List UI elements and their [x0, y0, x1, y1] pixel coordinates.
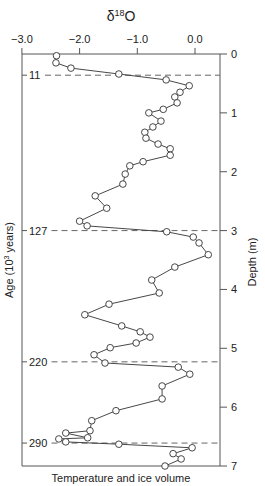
x-axis-label: Temperature and ice volume	[52, 472, 191, 484]
depth-tick-label: 6	[231, 401, 237, 413]
x-axis-ticks: −3.0−2.0−1.00.0	[11, 33, 203, 54]
data-point-marker	[137, 329, 144, 336]
data-point-marker	[91, 351, 98, 358]
data-point-marker	[167, 145, 174, 152]
data-point-marker	[148, 277, 155, 284]
data-point-marker	[102, 360, 109, 367]
data-point-marker	[56, 436, 63, 443]
data-point-marker	[186, 82, 193, 89]
data-point-marker	[107, 344, 114, 351]
data-point-marker	[133, 340, 140, 347]
depth-tick-label: 0	[231, 48, 237, 60]
data-point-marker	[81, 311, 88, 318]
age-marker-label: 290	[29, 437, 47, 449]
data-point-marker	[178, 456, 185, 463]
data-point-marker	[76, 218, 83, 225]
data-point-marker	[113, 407, 120, 414]
data-point-marker	[156, 290, 163, 297]
data-point-marker	[196, 240, 203, 247]
depth-tick-label: 3	[231, 225, 237, 237]
data-point-marker	[187, 371, 194, 378]
data-point-marker	[159, 396, 166, 403]
data-point-marker	[106, 301, 113, 308]
depth-axis-ticks: 01234567	[220, 48, 237, 472]
depth-tick-label: 2	[231, 166, 237, 178]
data-point-marker	[92, 193, 99, 200]
depth-tick-label: 1	[231, 107, 237, 119]
data-point-marker	[159, 383, 166, 390]
depth-tick-label: 5	[231, 342, 237, 354]
series-line	[56, 56, 208, 466]
data-point-marker	[190, 234, 197, 241]
data-point-marker	[142, 129, 149, 136]
data-point-marker	[162, 463, 169, 470]
x-tick-label: −2.0	[69, 33, 91, 45]
data-point-marker	[177, 89, 184, 96]
age-axis-label: Age (103 years)	[3, 222, 15, 298]
data-point-marker	[163, 77, 170, 84]
data-point-marker	[143, 135, 150, 142]
age-marker-label: 220	[29, 356, 47, 368]
data-point-marker	[160, 106, 167, 113]
d18o-series	[53, 52, 212, 469]
data-point-marker	[62, 430, 69, 437]
x-tick-label: −1.0	[126, 33, 148, 45]
depth-tick-label: 4	[231, 283, 237, 295]
data-point-marker	[205, 251, 212, 258]
depth-tick-label: 7	[231, 460, 237, 472]
data-point-marker	[167, 152, 174, 159]
data-point-marker	[150, 124, 157, 131]
age-marker-label: 127	[29, 225, 47, 237]
data-point-marker	[62, 439, 69, 446]
data-point-marker	[122, 171, 129, 178]
x-tick-label: 0.0	[187, 33, 202, 45]
data-point-marker	[84, 434, 91, 441]
age-marker-label: 11	[29, 69, 40, 81]
data-point-marker	[87, 427, 94, 434]
data-point-marker	[84, 223, 91, 230]
x-tick-label: −3.0	[11, 33, 33, 45]
depth-axis-label: Depth (m)	[246, 238, 258, 287]
data-point-marker	[116, 441, 123, 448]
data-point-marker	[116, 71, 123, 78]
chart-title: δ18O	[107, 8, 136, 24]
data-point-marker	[88, 417, 95, 424]
d18o-depth-chart: δ18O −3.0−2.0−1.00.0 01234567 1112722029…	[0, 0, 265, 486]
data-point-marker	[158, 118, 165, 125]
data-point-marker	[146, 110, 153, 117]
data-point-marker	[172, 264, 179, 271]
data-point-marker	[189, 444, 196, 451]
data-point-marker	[163, 228, 170, 235]
data-point-marker	[120, 181, 127, 188]
data-point-marker	[126, 163, 133, 170]
data-point-marker	[53, 52, 60, 59]
data-point-marker	[147, 334, 154, 341]
data-point-marker	[174, 100, 181, 107]
data-point-marker	[175, 364, 182, 371]
data-point-marker	[155, 141, 162, 148]
data-point-marker	[68, 65, 75, 72]
data-point-marker	[53, 60, 60, 67]
data-point-marker	[103, 205, 110, 212]
data-point-marker	[140, 158, 147, 165]
age-markers: 11127220290	[22, 69, 220, 449]
plot-frame	[22, 54, 220, 466]
data-point-marker	[118, 323, 125, 330]
data-point-marker	[170, 450, 177, 457]
